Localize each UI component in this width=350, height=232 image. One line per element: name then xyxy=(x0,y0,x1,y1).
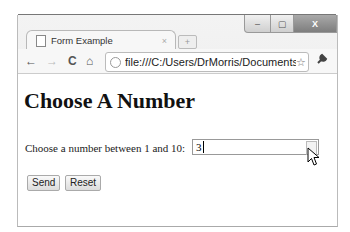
page-info-icon[interactable] xyxy=(110,57,121,68)
send-button[interactable]: Send xyxy=(27,175,60,191)
number-input-value: 3 xyxy=(196,141,202,153)
page-title: Choose A Number xyxy=(24,88,195,114)
page-icon xyxy=(36,35,46,47)
page-content: Choose A Number Choose a number between … xyxy=(18,74,337,226)
home-icon[interactable]: ⌂ xyxy=(86,54,93,68)
reset-button[interactable]: Reset xyxy=(65,175,101,191)
mouse-pointer-icon xyxy=(307,147,321,167)
back-icon[interactable]: ← xyxy=(25,54,37,68)
address-bar[interactable]: file:///C:/Users/DrMorris/Documents/ ☆ xyxy=(105,52,309,72)
browser-toolbar: ← → C ⌂ file:///C:/Users/DrMorris/Docume… xyxy=(18,49,337,74)
minimize-button[interactable]: ‒ xyxy=(244,15,271,33)
tab-close-icon[interactable]: × xyxy=(162,36,167,46)
forward-icon[interactable]: → xyxy=(46,54,58,68)
url-text[interactable]: file:///C:/Users/DrMorris/Documents/ xyxy=(125,56,296,68)
window-controls: ‒ ▢ X xyxy=(244,15,337,32)
number-label: Choose a number between 1 and 10: xyxy=(25,142,185,154)
maximize-button[interactable]: ▢ xyxy=(271,15,294,33)
tab-title: Form Example xyxy=(51,35,162,46)
wrench-menu-icon[interactable] xyxy=(316,53,328,68)
browser-window: ‒ ▢ X Form Example × + ← → C ⌂ file:///C… xyxy=(17,15,338,227)
bookmark-star-icon[interactable]: ☆ xyxy=(296,56,306,69)
close-window-button[interactable]: X xyxy=(294,15,337,33)
new-tab-button[interactable]: + xyxy=(178,35,197,49)
number-input[interactable]: 3 xyxy=(192,139,319,155)
reload-icon[interactable]: C xyxy=(68,54,77,68)
tab-form-example[interactable]: Form Example × xyxy=(26,30,176,50)
